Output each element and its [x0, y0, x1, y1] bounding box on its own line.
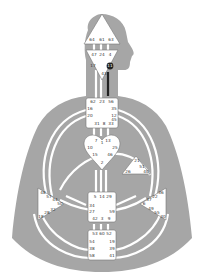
gate-64: 64 [89, 37, 95, 42]
gate-9: 9 [108, 216, 111, 221]
gate-63: 63 [108, 37, 114, 42]
gate-7: 7 [95, 138, 98, 143]
gate-30: 30 [160, 214, 166, 219]
gate-21: 21 [134, 158, 140, 163]
gate-32: 32 [50, 207, 56, 212]
gate-2: 2 [101, 160, 104, 165]
center-sacral[interactable]: 5 14 29 34 27 59 42 3 9 [88, 192, 116, 222]
gate-55: 55 [154, 210, 160, 215]
gate-35: 35 [111, 106, 117, 111]
gate-52: 52 [106, 231, 112, 236]
gate-17: 17 [90, 63, 96, 68]
gate-49: 49 [148, 206, 154, 211]
gate-48: 48 [40, 190, 46, 195]
gate-1: 1 [101, 140, 104, 145]
gate-36: 36 [158, 190, 164, 195]
gate-8: 8 [103, 121, 106, 126]
gate-57: 57 [46, 194, 52, 199]
bodygraph: 64 61 63 47 24 4 17 11 43 62 23 56 16 35… [0, 0, 202, 279]
gate-53: 53 [92, 231, 98, 236]
gate-40: 40 [143, 169, 149, 174]
gate-6: 6 [143, 201, 146, 206]
gate-18: 18 [38, 214, 44, 219]
gate-5: 5 [94, 194, 97, 199]
gate-26: 26 [125, 169, 131, 174]
gate-10: 10 [87, 145, 93, 150]
gate-61: 61 [99, 37, 105, 42]
gate-4: 4 [109, 52, 112, 57]
gate-11: 11 [107, 63, 113, 68]
gate-42: 42 [92, 216, 98, 221]
gate-19: 19 [109, 239, 115, 244]
gate-31: 31 [94, 121, 100, 126]
gate-15: 15 [92, 152, 98, 157]
gate-28: 28 [44, 210, 50, 215]
gate-58: 58 [89, 253, 95, 258]
gate-27: 27 [89, 209, 95, 214]
gate-25: 25 [112, 145, 118, 150]
gate-46: 46 [107, 152, 113, 157]
gate-3: 3 [101, 216, 104, 221]
gate-50: 50 [57, 201, 63, 206]
center-throat[interactable]: 62 23 56 16 35 20 12 31 8 33 45 [86, 98, 118, 128]
gate-24: 24 [99, 52, 105, 57]
gate-62: 62 [90, 99, 96, 104]
gate-23: 23 [99, 99, 105, 104]
gate-16: 16 [87, 106, 93, 111]
gate-59: 59 [109, 209, 115, 214]
center-root[interactable]: 53 60 52 54 38 58 19 39 41 [88, 230, 116, 260]
gate-47: 47 [91, 52, 97, 57]
gate-34: 34 [89, 203, 95, 208]
gate-29: 29 [106, 194, 112, 199]
gate-37: 37 [146, 197, 152, 202]
gate-60: 60 [99, 231, 105, 236]
gate-43: 43 [101, 71, 107, 76]
gate-56: 56 [108, 99, 114, 104]
gate-13: 13 [105, 138, 111, 143]
gate-20: 20 [87, 113, 93, 118]
gate-38: 38 [89, 246, 95, 251]
gate-22: 22 [152, 194, 158, 199]
gate-14: 14 [99, 194, 105, 199]
gate-41: 41 [109, 253, 115, 258]
gate-45: 45 [111, 117, 117, 122]
gate-39: 39 [109, 246, 115, 251]
gate-54: 54 [89, 239, 95, 244]
